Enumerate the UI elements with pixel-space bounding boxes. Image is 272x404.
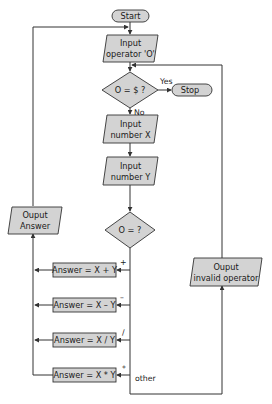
input-operator-node: Input operator 'O': [103, 35, 158, 62]
output-answer-line2: Answer: [20, 221, 51, 231]
stop-label: Stop: [181, 85, 200, 95]
start-terminator: Start: [112, 10, 149, 22]
edge-label-plus: +: [120, 258, 127, 267]
output-invalid-line2: invalid operator: [194, 273, 260, 283]
output-answer-node: Ouput Answer: [8, 207, 62, 234]
decision-stop-node: O = $ ?: [102, 72, 158, 108]
decision-op-node: O = ?: [105, 212, 155, 248]
decision-stop-label: O = $ ?: [115, 85, 146, 95]
input-y-line2: number Y: [111, 172, 152, 182]
answer-add-node: Answer = X + Y: [52, 263, 118, 277]
answer-sub-node: Answer = X – Y: [53, 298, 117, 312]
output-invalid-node: Ouput invalid operator: [190, 258, 262, 286]
edge-label-other: other: [135, 374, 157, 383]
output-invalid-line1: Ouput: [213, 262, 239, 272]
edge-label-yes: Yes: [159, 77, 173, 86]
edge-label-multiply: *: [122, 364, 126, 373]
edge-label-divide: /: [122, 328, 125, 337]
input-x-node: Input number X: [103, 115, 158, 143]
answer-div-node: Answer = X / Y: [53, 333, 116, 347]
input-x-line2: number X: [110, 130, 151, 140]
answer-sub-label: Answer = X – Y: [53, 300, 116, 310]
start-label: Start: [120, 11, 141, 21]
input-y-node: Input number Y: [103, 157, 158, 185]
answer-add-label: Answer = X + Y: [52, 265, 118, 275]
edge-label-minus: –: [120, 293, 124, 302]
stop-terminator: Stop: [172, 84, 212, 96]
flowchart: Start Input operator 'O' O = $ ? Yes Sto…: [0, 0, 272, 404]
output-answer-line1: Ouput: [22, 210, 48, 220]
decision-op-label: O = ?: [119, 225, 142, 235]
input-operator-line1: Input: [120, 38, 142, 48]
answer-div-label: Answer = X / Y: [54, 335, 116, 345]
input-x-line1: Input: [120, 119, 142, 129]
answer-mul-node: Answer = X * Y: [53, 368, 117, 382]
input-operator-line2: operator 'O': [106, 49, 155, 59]
input-y-line1: Input: [120, 161, 142, 171]
answer-mul-label: Answer = X * Y: [53, 370, 116, 380]
